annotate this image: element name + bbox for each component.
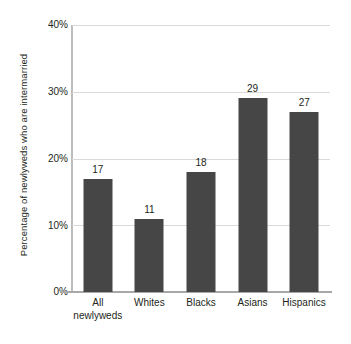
bar-slot-hispanics: 27 xyxy=(278,25,330,292)
bar-chart: Percentage of newlyweds who are intermar… xyxy=(0,0,351,344)
x-tick-label-blacks: Blacks xyxy=(175,297,227,310)
x-tick-label-hispanics: Hispanics xyxy=(275,297,333,310)
bar-asians xyxy=(238,98,267,292)
bar-slot-asians: 29 xyxy=(227,25,279,292)
bar-slot-all-newlyweds: 17 xyxy=(72,25,124,292)
bar-blacks xyxy=(186,172,215,292)
x-tick-label-asians: Asians xyxy=(227,297,279,310)
y-tick-label-10: 10% xyxy=(28,221,68,231)
y-tick-label-30: 30% xyxy=(28,87,68,97)
bar-value-asians: 29 xyxy=(247,84,258,94)
bar-value-whites: 11 xyxy=(144,205,154,215)
bar-value-all-newlyweds: 17 xyxy=(92,165,103,175)
y-tick-label-20: 20% xyxy=(28,154,68,164)
bar-value-hispanics: 27 xyxy=(299,98,310,108)
y-tick-label-40: 40% xyxy=(28,20,68,30)
x-tick-label-whites: Whites xyxy=(124,297,176,310)
bar-whites xyxy=(135,219,164,292)
plot-area: 17 11 18 29 27 xyxy=(72,25,330,292)
bar-all-newlyweds xyxy=(83,179,112,292)
bar-slot-whites: 11 xyxy=(124,25,176,292)
bar-hispanics xyxy=(290,112,319,292)
x-tick-label-all-newlyweds: All newlyweds xyxy=(72,297,124,322)
bar-value-blacks: 18 xyxy=(195,158,206,168)
bar-slot-blacks: 18 xyxy=(175,25,227,292)
